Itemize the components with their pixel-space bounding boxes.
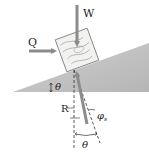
bottom-angle-label: θ (82, 139, 88, 150)
block-on-incline-diagram: W Q θ R φs θ (0, 0, 149, 154)
friction-angle-arc (88, 110, 95, 111)
incline-angle-label: θ (55, 81, 61, 92)
friction-angle-label: φs (97, 110, 107, 122)
weight-label: W (83, 7, 95, 20)
bottom-angle-arc (75, 134, 97, 136)
horizontal-force-label: Q (28, 36, 37, 49)
reaction-label: R (61, 103, 69, 114)
